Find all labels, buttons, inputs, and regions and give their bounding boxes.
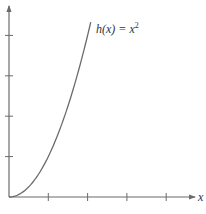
function-label-base: h(x) = x [96,22,135,36]
x-axis-label: x [197,190,204,204]
chart: x h(x) = x2 [0,0,206,214]
function-label: h(x) = x2 [96,21,139,36]
curve-h-x-squared [9,22,91,197]
y-axis [5,6,13,197]
x-axis: x [9,190,204,204]
function-label-exponent: 2 [135,21,139,30]
